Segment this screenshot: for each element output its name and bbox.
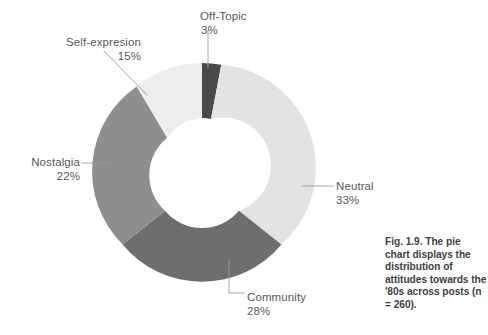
pie-label-community-name: Community: [247, 291, 306, 303]
figure-pie-chart: Off-Topic 3% Self-expresion 15% Nostalgi…: [0, 0, 488, 335]
pie-label-self-expresion-value: 15%: [31, 50, 141, 64]
pie-label-self-expresion-name: Self-expresion: [66, 36, 141, 48]
pie-label-neutral: Neutral 33%: [336, 180, 374, 207]
pie-label-nostalgia: Nostalgia 22%: [12, 156, 80, 183]
figure-caption: Fig. 1.9. The pie chart displays the dis…: [385, 236, 487, 312]
pie-label-self-expresion: Self-expresion 15%: [31, 36, 141, 63]
pie-slice-neutral[interactable]: [211, 65, 316, 245]
pie-label-community: Community 28%: [247, 291, 306, 318]
pie-label-off-topic-name: Off-Topic: [200, 10, 247, 22]
pie-label-off-topic: Off-Topic 3%: [200, 10, 247, 37]
pie-label-neutral-name: Neutral: [336, 180, 374, 192]
pie-label-community-value: 28%: [247, 305, 306, 319]
pie-label-off-topic-value: 3%: [201, 24, 247, 38]
pie-label-nostalgia-name: Nostalgia: [31, 156, 80, 168]
pie-label-neutral-value: 33%: [336, 194, 374, 208]
pie-label-nostalgia-value: 22%: [12, 170, 80, 184]
